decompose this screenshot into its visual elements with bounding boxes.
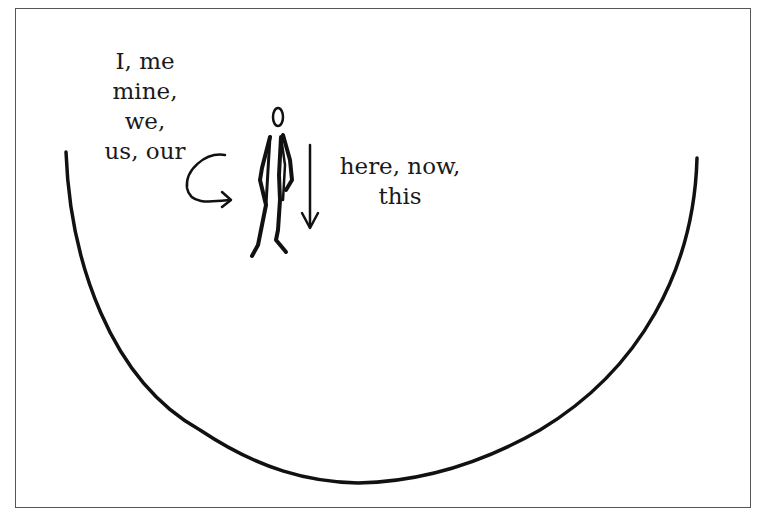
stick-figure-icon [252, 108, 292, 256]
deixis-label: here, now, this [330, 151, 470, 211]
pronoun-line-1: I, me [95, 46, 195, 76]
down-arrow-icon [302, 145, 318, 228]
deixis-line-1: here, now, [330, 151, 470, 181]
pronoun-line-3: us, our [95, 136, 195, 166]
pronoun-line-2: mine, we, [95, 76, 195, 136]
deixis-line-2: this [330, 181, 470, 211]
pronoun-label: I, me mine, we, us, our [95, 46, 195, 166]
